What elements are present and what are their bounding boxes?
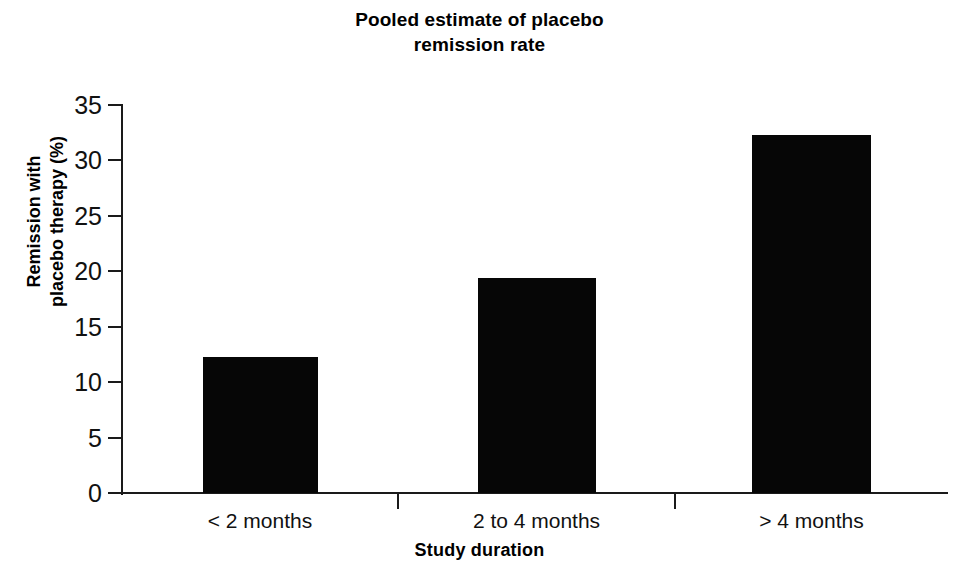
y-tick-mark	[108, 215, 122, 217]
y-tick-label: 20	[56, 259, 102, 284]
y-tick-mark	[108, 492, 122, 494]
x-category-label: 2 to 4 months	[377, 510, 697, 531]
category-separator-tick	[397, 493, 399, 509]
bar	[203, 357, 318, 493]
bar	[752, 135, 871, 493]
bar	[478, 278, 596, 493]
y-tick-label: 35	[56, 93, 102, 118]
x-category-label: < 2 months	[100, 510, 420, 531]
x-axis-title: Study duration	[0, 540, 959, 561]
bar-chart-figure: Pooled estimate of placebo remission rat…	[0, 0, 959, 569]
y-tick-mark	[108, 381, 122, 383]
y-tick-label: 15	[56, 314, 102, 339]
y-tick-mark	[108, 270, 122, 272]
y-tick-label: 30	[56, 148, 102, 173]
y-tick-mark	[108, 326, 122, 328]
x-category-label: > 4 months	[652, 510, 959, 531]
y-tick-label: 0	[56, 481, 102, 506]
y-tick-mark	[108, 104, 122, 106]
y-tick-label: 25	[56, 203, 102, 228]
y-tick-label: 5	[56, 425, 102, 450]
chart-title: Pooled estimate of placebo remission rat…	[0, 8, 959, 57]
y-tick-mark	[108, 159, 122, 161]
y-tick-mark	[108, 437, 122, 439]
category-separator-tick	[674, 493, 676, 509]
y-tick-label: 10	[56, 370, 102, 395]
